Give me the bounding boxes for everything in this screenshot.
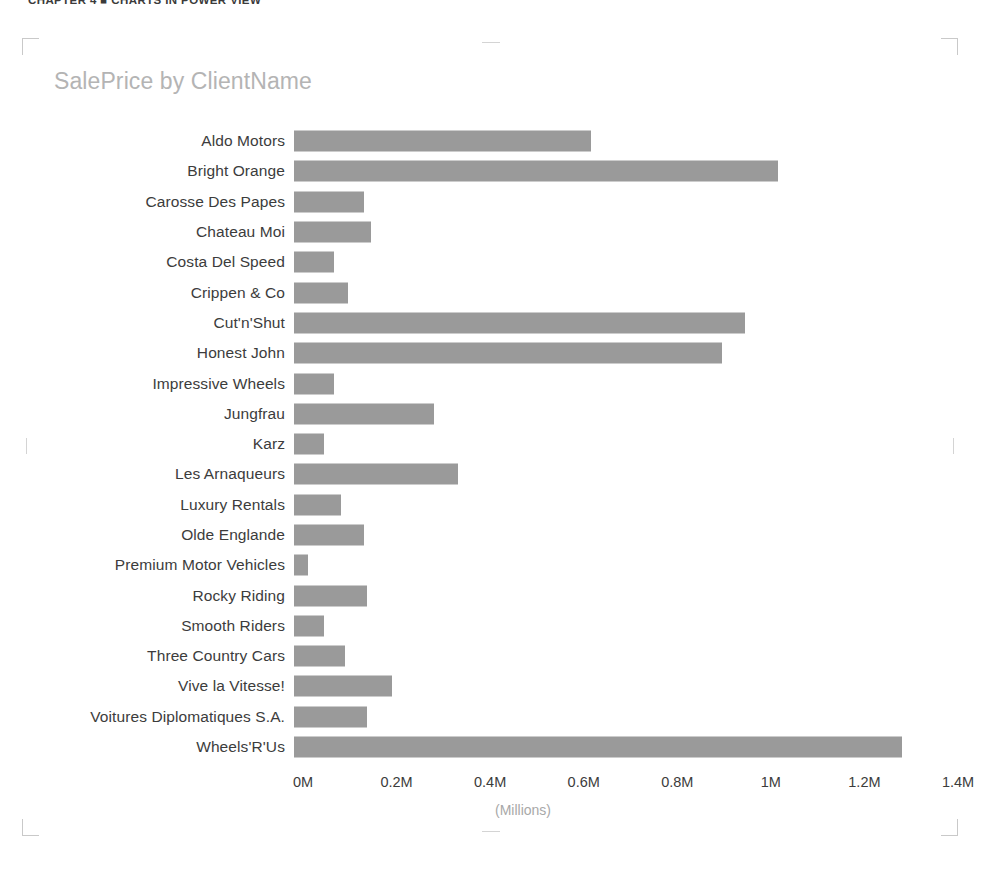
x-axis-tick: 0.2M [380,774,412,790]
bar-track [294,277,958,307]
bar-track [294,580,958,610]
bar-row[interactable]: Cut'n'Shut [22,308,958,338]
bar-track [294,126,958,156]
x-axis-tick: 0M [293,774,313,790]
bar[interactable] [294,737,902,758]
x-axis-tick: 1.2M [848,774,880,790]
bar-row[interactable]: Costa Del Speed [22,247,958,277]
category-label: Les Arnaqueurs [22,465,294,483]
bar[interactable] [294,585,367,606]
bar[interactable] [294,494,341,515]
bar[interactable] [294,434,324,455]
bar-track [294,490,958,520]
bar[interactable] [294,706,367,727]
bar-track [294,217,958,247]
bar-track [294,702,958,732]
bar-track [294,338,958,368]
category-label: Olde Englande [22,526,294,544]
category-label: Honest John [22,344,294,362]
bar-row[interactable]: Carosse Des Papes [22,187,958,217]
page-crop-frame: SalePrice by ClientName Aldo MotorsBrigh… [22,38,958,836]
category-label: Chateau Moi [22,223,294,241]
bar-row[interactable]: Chateau Moi [22,217,958,247]
bar-row[interactable]: Olde Englande [22,520,958,550]
bar[interactable] [294,191,364,212]
bar-row[interactable]: Les Arnaqueurs [22,459,958,489]
bar-track [294,399,958,429]
bar-row[interactable]: Honest John [22,338,958,368]
category-label: Cut'n'Shut [22,314,294,332]
x-axis: (Millions) 0M0.2M0.4M0.6M0.8M1M1.2M1.4M [303,774,958,834]
bar-row[interactable]: Luxury Rentals [22,490,958,520]
category-label: Luxury Rentals [22,496,294,514]
bar-row[interactable]: Impressive Wheels [22,368,958,398]
bar[interactable] [294,555,308,576]
bar-track [294,308,958,338]
bar-row[interactable]: Crippen & Co [22,277,958,307]
category-label: Three Country Cars [22,647,294,665]
bar[interactable] [294,131,591,152]
bar[interactable] [294,222,371,243]
category-label: Crippen & Co [22,284,294,302]
category-label: Costa Del Speed [22,253,294,271]
bar[interactable] [294,252,334,273]
bar[interactable] [294,312,745,333]
category-label: Karz [22,435,294,453]
bar-row[interactable]: Smooth Riders [22,611,958,641]
bar-track [294,732,958,762]
bar[interactable] [294,403,434,424]
bar-track [294,550,958,580]
bar[interactable] [294,676,392,697]
x-axis-tick: 0.6M [568,774,600,790]
bar-row[interactable]: Jungfrau [22,399,958,429]
category-label: Smooth Riders [22,617,294,635]
bar[interactable] [294,373,334,394]
bar-track [294,429,958,459]
running-head: CHAPTER 4 ■ CHARTS IN POWER VIEW [28,0,588,8]
bar-track [294,247,958,277]
bar-track [294,187,958,217]
bar-track [294,520,958,550]
chart-title: SalePrice by ClientName [54,68,312,95]
bar-row[interactable]: Vive la Vitesse! [22,671,958,701]
category-label: Vive la Vitesse! [22,677,294,695]
bar-row[interactable]: Premium Motor Vehicles [22,550,958,580]
bar[interactable] [294,464,458,485]
category-label: Jungfrau [22,405,294,423]
bar-track [294,368,958,398]
category-label: Impressive Wheels [22,375,294,393]
bar-track [294,156,958,186]
bar-row[interactable]: Karz [22,429,958,459]
x-axis-tick: 0.4M [474,774,506,790]
bar-track [294,459,958,489]
bar-row[interactable]: Three Country Cars [22,641,958,671]
bar[interactable] [294,525,364,546]
category-label: Voitures Diplomatiques S.A. [22,708,294,726]
bar-chart-visual[interactable]: SalePrice by ClientName Aldo MotorsBrigh… [22,38,958,836]
bar-row[interactable]: Wheels'R'Us [22,732,958,762]
bar-rows: Aldo MotorsBright OrangeCarosse Des Pape… [22,126,958,762]
x-axis-tick: 1M [761,774,781,790]
bar-track [294,671,958,701]
x-axis-tick: 1.4M [942,774,974,790]
category-label: Rocky Riding [22,587,294,605]
bar[interactable] [294,615,324,636]
bar[interactable] [294,343,722,364]
bar[interactable] [294,282,348,303]
bar-row[interactable]: Bright Orange [22,156,958,186]
category-label: Aldo Motors [22,132,294,150]
bar-row[interactable]: Voitures Diplomatiques S.A. [22,702,958,732]
bar-row[interactable]: Aldo Motors [22,126,958,156]
bar-track [294,611,958,641]
chart-plot-area: Aldo MotorsBright OrangeCarosse Des Pape… [22,126,958,836]
x-axis-tick: 0.8M [661,774,693,790]
bar[interactable] [294,646,345,667]
bar[interactable] [294,161,778,182]
axis-unit-label: (Millions) [303,802,743,818]
category-label: Wheels'R'Us [22,738,294,756]
bar-row[interactable]: Rocky Riding [22,580,958,610]
bar-track [294,641,958,671]
category-label: Bright Orange [22,162,294,180]
category-label: Premium Motor Vehicles [22,556,294,574]
category-label: Carosse Des Papes [22,193,294,211]
